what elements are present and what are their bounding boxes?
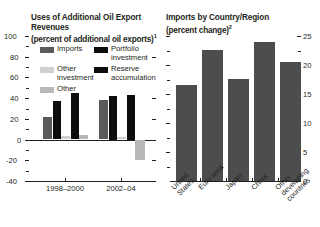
legend-swatch-other: [40, 87, 54, 93]
right-ytick-left-20: [166, 65, 170, 66]
right-chart-subtitle: (percent change)2: [166, 23, 232, 35]
left-xtick-2002-04: [121, 178, 122, 181]
right-chart-subtitle-text: (percent change): [166, 25, 229, 34]
figure-root: Uses of Additional Oil Export Revenues (…: [0, 0, 320, 227]
left-ytick-label-80: 80: [10, 53, 18, 62]
left-xaxis-label-1998-2000: 1998–2000: [37, 184, 93, 193]
left-xtick-1998-2000: [65, 178, 66, 181]
left-ytick-label-100: 100: [4, 32, 17, 41]
legend-label-portfolio-investment: Portfolio investment: [111, 45, 171, 62]
left-ytick-100: [25, 36, 29, 37]
left-ytick-minor-30: [26, 109, 29, 110]
left-ytick-minor-neg10: [26, 150, 29, 151]
legend-label-imports: Imports: [57, 45, 117, 54]
left-ytick-right-neg20: [152, 160, 156, 161]
left-ytick-60: [25, 77, 29, 78]
left-ytick-label-neg40: -40: [6, 177, 17, 186]
chart-panel-imports-by-country-region: Imports by Country/Region (percent chang…: [163, 0, 320, 227]
right-ytick-label-10: 10: [303, 119, 311, 128]
left-ytick-neg20: [25, 160, 29, 161]
right-ytick-left-minor-12p5: [167, 109, 170, 110]
bar-1998-2000-reserve-accumulation: [71, 93, 79, 140]
right-ytick-left-5: [166, 152, 170, 153]
bar-2002-04-other: [135, 140, 145, 161]
left-chart-subtitle-superscript: 1: [154, 33, 157, 39]
legend-label-other: Other: [57, 85, 117, 94]
left-ytick-label-neg20: -20: [6, 156, 17, 165]
left-ytick-minor-70: [26, 67, 29, 68]
left-ytick-40: [25, 98, 29, 99]
right-ytick-label-20: 20: [303, 61, 311, 70]
legend-swatch-portfolio-investment: [94, 47, 108, 53]
legend-swatch-other-investment: [40, 67, 54, 73]
legend-swatch-reserve-accumulation: [94, 67, 108, 73]
left-ytick-minor-neg30: [26, 171, 29, 172]
legend-label-other-investment: Other investment: [57, 65, 117, 82]
right-ytick-label-25: 25: [303, 32, 311, 41]
right-ytick-left-10: [166, 123, 170, 124]
left-ytick-label-20: 20: [10, 115, 18, 124]
right-xaxis-label-china: China: [250, 173, 269, 192]
left-ytick-label-0: 0: [17, 136, 21, 145]
bar-2002-04-reserve-accumulation: [127, 95, 135, 140]
left-ytick-label-40: 40: [10, 94, 18, 103]
right-ytick-left-25: [166, 36, 170, 37]
bar-2002-04-portfolio-investment: [109, 96, 117, 140]
bar-japan: [228, 79, 249, 181]
right-ytick-label-15: 15: [303, 90, 311, 99]
right-ytick-left-minor-22p5: [167, 51, 170, 52]
bar-2002-04-imports: [99, 100, 108, 139]
left-ytick-minor-90: [26, 46, 29, 47]
bar-china: [254, 42, 275, 181]
right-chart-title: Imports by Country/Region: [166, 13, 269, 22]
left-ytick-20: [25, 119, 29, 120]
left-ytick-80: [25, 57, 29, 58]
right-ytick-label-5: 5: [303, 148, 307, 157]
right-ytick-25: [297, 36, 301, 37]
left-ytick-right-20: [152, 119, 156, 120]
left-ytick-minor-50: [26, 88, 29, 89]
left-xaxis-label-2002-04: 2002–04: [96, 184, 146, 193]
bar-1998-2000-portfolio-investment: [53, 101, 61, 139]
right-chart-subtitle-superscript: 2: [229, 24, 232, 30]
right-ytick-left-minor-7p5: [167, 138, 170, 139]
right-ytick-left-15: [166, 94, 170, 95]
right-ytick-left-minor-2p5: [167, 167, 170, 168]
legend-swatch-imports: [40, 47, 54, 53]
left-ytick-label-60: 60: [10, 73, 18, 82]
right-ytick-left-minor-17p5: [167, 80, 170, 81]
left-chart-title-line1: Uses of Additional Oil Export: [31, 13, 141, 22]
left-chart-subtitle: (percent of additional oil exports)1: [31, 32, 157, 44]
left-chart-subtitle-text: (percent of additional oil exports): [31, 35, 154, 44]
legend-label-reserve-accumulation: Reserve accumulation: [111, 65, 171, 82]
bar-1998-2000-other-investment: [61, 136, 70, 139]
bar-1998-2000-other: [79, 135, 88, 139]
bar-2002-04-other-investment: [117, 137, 126, 139]
bar-euro-area: [202, 50, 223, 181]
left-chart-title-line2: Revenues: [31, 23, 69, 32]
bar-united-states: [176, 85, 197, 181]
left-ytick-minor-10: [26, 129, 29, 130]
left-x-axis: [29, 181, 156, 182]
right-ytick-minor-22p5: [298, 51, 301, 52]
bar-1998-2000-imports: [43, 117, 52, 140]
left-ytick-right-40: [152, 98, 156, 99]
chart-panel-uses-of-oil-revenues: Uses of Additional Oil Export Revenues (…: [0, 0, 163, 227]
